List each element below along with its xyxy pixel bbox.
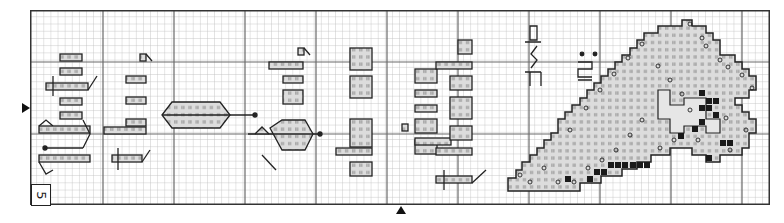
center-marker-left-arrow-icon (22, 103, 30, 113)
cross-stitch-chart (30, 10, 770, 205)
page-number-box: 5 (31, 184, 51, 206)
center-marker-bottom-arrow-icon (396, 206, 406, 214)
chart-grid (30, 10, 770, 205)
page-number: 5 (34, 191, 49, 199)
